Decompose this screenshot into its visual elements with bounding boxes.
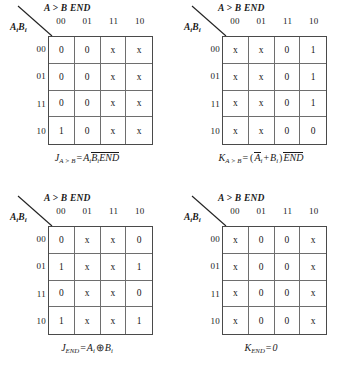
left-var-b-sub: i bbox=[199, 26, 201, 34]
row-header: 00 bbox=[196, 226, 220, 253]
column-header: 10 bbox=[127, 206, 153, 216]
row-headers: 00 01 11 10 bbox=[196, 226, 220, 335]
kmap-j-end: A > B END AiBi 00 01 11 10 00 01 11 10 0… bbox=[0, 190, 174, 380]
caption-lhs-sub: A > B bbox=[225, 157, 241, 164]
top-variable-label: A > B END bbox=[44, 3, 91, 13]
kmap-k-a-greater-b: A > B END AiBi 00 01 11 10 00 01 11 10 x… bbox=[174, 0, 348, 190]
kmap-cell: x bbox=[223, 37, 249, 64]
kmap-cell: x bbox=[300, 254, 326, 281]
column-header: 01 bbox=[248, 206, 274, 216]
row-header: 00 bbox=[22, 36, 46, 63]
left-variable-label: AiBi bbox=[184, 22, 201, 34]
caption-equals: = bbox=[241, 152, 249, 163]
caption-lhs-sub: END bbox=[251, 347, 265, 354]
kmap-cell: 0 bbox=[275, 281, 301, 308]
column-header: 01 bbox=[248, 16, 274, 26]
kmap-grid: x 0 0 x x 0 0 x x 0 0 x x 0 0 x bbox=[222, 226, 327, 335]
column-header: 11 bbox=[275, 16, 301, 26]
kmap-cell: x bbox=[75, 254, 101, 281]
left-variable-label: AiBi bbox=[10, 22, 27, 34]
caption-term-overbar: END bbox=[99, 152, 119, 164]
left-var-b-sub: i bbox=[199, 216, 201, 224]
kmap-cell: 0 bbox=[249, 281, 275, 308]
kmap-cell: x bbox=[223, 307, 249, 334]
top-variable-label: A > B END bbox=[218, 193, 265, 203]
kmap-cell: x bbox=[223, 281, 249, 308]
left-var-b-sub: i bbox=[25, 26, 27, 34]
row-header: 00 bbox=[22, 226, 46, 253]
column-header: 10 bbox=[127, 16, 153, 26]
row-header: 10 bbox=[196, 308, 220, 335]
kmap-cell: x bbox=[223, 227, 249, 254]
kmap-cell: x bbox=[101, 64, 127, 91]
kmap-cell: x bbox=[300, 307, 326, 334]
kmap-cell: 0 bbox=[49, 64, 75, 91]
kmap-cell: 0 bbox=[75, 64, 101, 91]
column-headers: 00 01 11 10 bbox=[222, 16, 327, 26]
kmap-cell: 0 bbox=[275, 307, 301, 334]
kmap-cell: 0 bbox=[75, 91, 101, 118]
kmap-cell: x bbox=[101, 281, 127, 308]
kmap-cell: x bbox=[223, 254, 249, 281]
kmap-cell: x bbox=[126, 37, 152, 64]
kmap-cell: 0 bbox=[49, 281, 75, 308]
column-header: 11 bbox=[101, 206, 127, 216]
kmap-cell: x bbox=[75, 281, 101, 308]
column-headers: 00 01 11 10 bbox=[48, 16, 153, 26]
kmap-cell: 0 bbox=[275, 227, 301, 254]
kmap-cell: x bbox=[101, 91, 127, 118]
column-header: 10 bbox=[301, 16, 327, 26]
kmap-cell: 0 bbox=[275, 91, 301, 118]
kmap-cell: x bbox=[223, 91, 249, 118]
kmap-cell: x bbox=[75, 307, 101, 334]
kmap-cell: 1 bbox=[126, 307, 152, 334]
row-header: 11 bbox=[196, 91, 220, 118]
kmap-cell: 0 bbox=[275, 254, 301, 281]
caption-equals: = bbox=[79, 342, 87, 353]
kmap-caption: KEND=0 bbox=[174, 342, 348, 354]
kmap-cell: 0 bbox=[275, 37, 301, 64]
kmap-grid: 0 x x 0 1 x x 1 0 x x 0 1 x x 1 bbox=[48, 226, 153, 335]
column-header: 00 bbox=[222, 16, 248, 26]
kmap-cell: x bbox=[300, 227, 326, 254]
kmap-cell: 1 bbox=[300, 64, 326, 91]
kmap-grid: 0 0 x x 0 0 x x 0 0 x x 1 0 x x bbox=[48, 36, 153, 145]
kmap-cell: x bbox=[223, 64, 249, 91]
karnaugh-map-figure: A > B END AiBi 00 01 11 10 00 01 11 10 0… bbox=[0, 0, 348, 381]
kmap-cell: x bbox=[101, 117, 127, 144]
kmap-cell: 0 bbox=[75, 117, 101, 144]
kmap-cell: 0 bbox=[249, 227, 275, 254]
kmap-cell: x bbox=[300, 281, 326, 308]
kmap-cell: 1 bbox=[49, 254, 75, 281]
kmap-cell: 0 bbox=[75, 37, 101, 64]
column-headers: 00 01 11 10 bbox=[222, 206, 327, 216]
kmap-cell: 0 bbox=[275, 117, 301, 144]
kmap-cell: x bbox=[126, 91, 152, 118]
row-header: 10 bbox=[196, 118, 220, 145]
column-header: 01 bbox=[74, 206, 100, 216]
kmap-cell: 0 bbox=[249, 254, 275, 281]
kmap-cell: 1 bbox=[300, 37, 326, 64]
kmap-cell: x bbox=[101, 307, 127, 334]
kmap-caption: KA > B=(Ai+Bi)END bbox=[174, 152, 348, 164]
column-header: 00 bbox=[48, 16, 74, 26]
caption-term-overbar: Bi bbox=[91, 152, 99, 164]
row-header: 01 bbox=[22, 63, 46, 90]
kmap-cell: x bbox=[101, 37, 127, 64]
kmap-cell: x bbox=[126, 117, 152, 144]
kmap-cell: x bbox=[101, 254, 127, 281]
kmap-cell: x bbox=[249, 117, 275, 144]
kmap-cell: 0 bbox=[49, 227, 75, 254]
kmap-cell: 0 bbox=[300, 117, 326, 144]
kmap-cell: 0 bbox=[49, 91, 75, 118]
caption-equals: = bbox=[75, 152, 83, 163]
row-header: 10 bbox=[22, 118, 46, 145]
row-header: 11 bbox=[22, 91, 46, 118]
kmap-cell: 0 bbox=[275, 64, 301, 91]
kmap-cell: 1 bbox=[300, 91, 326, 118]
kmap-cell: 0 bbox=[49, 37, 75, 64]
caption-lhs-sub: END bbox=[66, 347, 80, 354]
row-headers: 00 01 11 10 bbox=[196, 36, 220, 145]
row-header: 01 bbox=[22, 253, 46, 280]
caption-xor-operator: ⊕ bbox=[95, 342, 105, 353]
